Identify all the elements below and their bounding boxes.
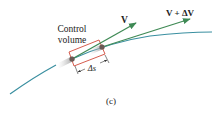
control-volume-label-line1: Control [57,24,86,34]
streamline-lower [10,65,56,94]
fluid-particle-2 [99,44,104,49]
fluid-particle-1 [69,56,74,61]
vector-v-label: V [121,15,128,25]
dimension-tick-right [105,55,109,63]
streamline-upper [72,32,212,59]
control-volume-label-line2: volume [58,35,87,45]
dimension-tick-left [75,66,78,74]
delta-s-label: Δs [87,63,97,73]
dimension-line-left [78,69,85,72]
dimension-line-right [100,60,107,63]
vector-v-plus-dv-label: V + ΔV [166,8,195,18]
panel-label: (c) [106,96,116,106]
diagram-canvas: Control volume V V + ΔV Δs (c) [0,0,219,123]
